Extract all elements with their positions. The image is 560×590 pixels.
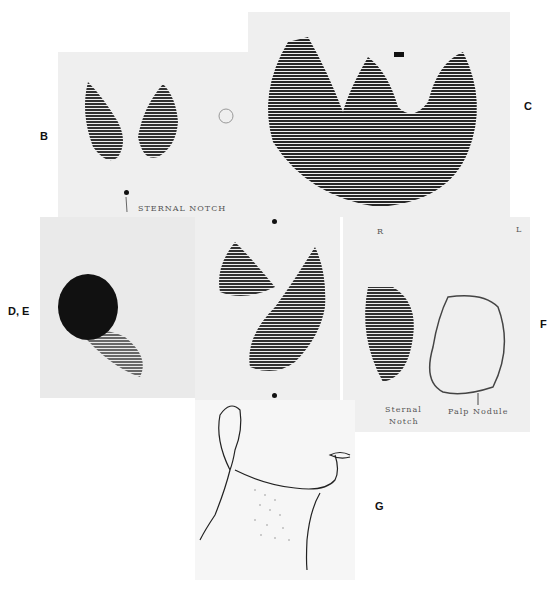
panel-de-thyroid-scan	[40, 217, 195, 398]
panel-g-neck-drawing	[195, 400, 355, 580]
sternal-notch-marker	[124, 190, 129, 195]
panel-f-scan-image	[343, 217, 530, 432]
panel-b-scan-image	[58, 52, 248, 217]
notch-annotation: Notch	[389, 417, 419, 426]
panel-c-scan-image	[248, 12, 510, 217]
panel-c-thyroid-scan	[248, 12, 510, 217]
panel-b-thyroid-scan: STERNAL NOTCH	[58, 52, 248, 217]
panel-label-c: C	[524, 100, 532, 112]
left-side-annotation: L	[516, 225, 522, 234]
panel-middle-thyroid-scan	[195, 217, 340, 400]
panel-label-de: D, E	[8, 305, 29, 317]
palp-nodule-annotation: Palp Nodule	[448, 407, 508, 416]
right-side-annotation: R	[377, 227, 384, 236]
panel-f-thyroid-scan: R L Sternal Notch Palp Nodule	[343, 217, 530, 432]
panel-label-b: B	[40, 130, 48, 142]
panel-middle-scan-image	[195, 217, 340, 400]
bottom-marker	[272, 393, 277, 398]
sternal-annotation: Sternal	[385, 405, 422, 414]
panel-de-scan-image	[40, 217, 195, 398]
sternal-notch-annotation: STERNAL NOTCH	[138, 204, 226, 213]
top-marker	[272, 219, 277, 224]
panel-label-f: F	[540, 318, 547, 330]
panel-label-g: G	[375, 500, 384, 512]
neck-outline-drawing	[195, 400, 355, 580]
